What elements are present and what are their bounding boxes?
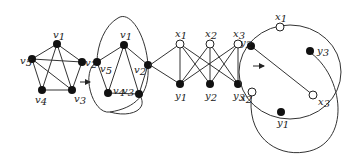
vertex-x2 [206,40,214,48]
label-v5: v5 [20,55,32,68]
vertex-y2 [206,80,214,88]
label-y2: y2 [239,37,252,50]
vertex-y3 [306,47,314,55]
label-x2: x2 [205,28,217,41]
vertex-v3 [135,90,143,98]
stage1-labels: v1 v2 v3 v4 v5 [20,29,97,107]
label-v4: v4 [113,85,125,98]
label-x1: x1 [275,11,287,24]
label-y1: y1 [276,117,289,130]
label-v4: v4 [35,94,47,107]
vertex-x1 [276,23,284,31]
graph-transformation-diagram: v1 v2 v3 v4 v5 v1 v2 v3 v4 v5 [0,0,355,162]
label-x3: x3 [318,96,330,109]
vertex-x3 [309,91,317,99]
vertex-v4 [38,86,46,94]
label-y3: y3 [316,45,329,58]
stage1-graph [32,44,82,90]
stage4-vertices [247,23,317,116]
label-x1: x1 [175,28,187,41]
vertex-y1 [176,80,184,88]
stage1-vertices [28,40,86,94]
vertex-y1 [277,108,285,116]
label-v1: v1 [120,29,132,42]
label-x2: x2 [240,92,252,105]
vertex-x1 [176,40,184,48]
stage3-graph [150,44,238,84]
stage2-labels: v1 v2 v3 v4 v5 [100,29,146,98]
label-v2: v2 [134,64,146,77]
label-y1: y1 [174,90,187,103]
label-y2: y2 [204,90,217,103]
vertex-v1 [120,41,128,49]
label-v3: v3 [74,93,86,106]
label-v1: v1 [53,29,65,42]
vertex-v4 [104,89,112,97]
